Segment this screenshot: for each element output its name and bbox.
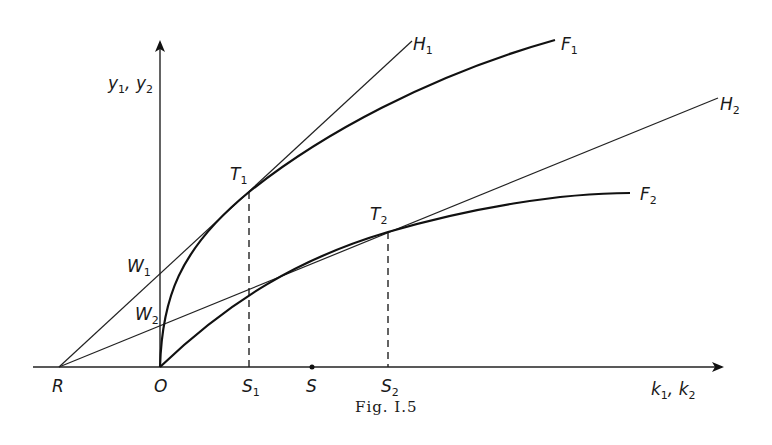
label-s1: S1 (242, 376, 260, 399)
figure-caption: Fig. I.5 (355, 398, 418, 416)
label-w1: W1 (127, 256, 151, 279)
y-axis-label: y1, y2 (107, 73, 153, 96)
point-s-marker (310, 365, 315, 370)
label-f2: F2 (640, 184, 657, 207)
label-o: O (154, 376, 167, 396)
x-axis-label: k1, k2 (651, 379, 696, 402)
label-s2: S2 (381, 376, 399, 399)
label-t1: T1 (230, 164, 247, 187)
label-r: R (52, 376, 64, 396)
label-t2: T2 (370, 204, 387, 227)
label-f1: F1 (561, 34, 578, 57)
production-function-diagram: y1, y2 k1, k2 H1 H2 F1 F2 T1 T2 W1 W2 R … (0, 0, 772, 445)
label-s: S (306, 376, 317, 396)
label-h2: H2 (720, 94, 740, 117)
curve-f2 (160, 193, 630, 367)
curve-f1 (160, 40, 555, 367)
label-w2: W2 (135, 304, 159, 327)
label-h1: H1 (413, 34, 433, 57)
